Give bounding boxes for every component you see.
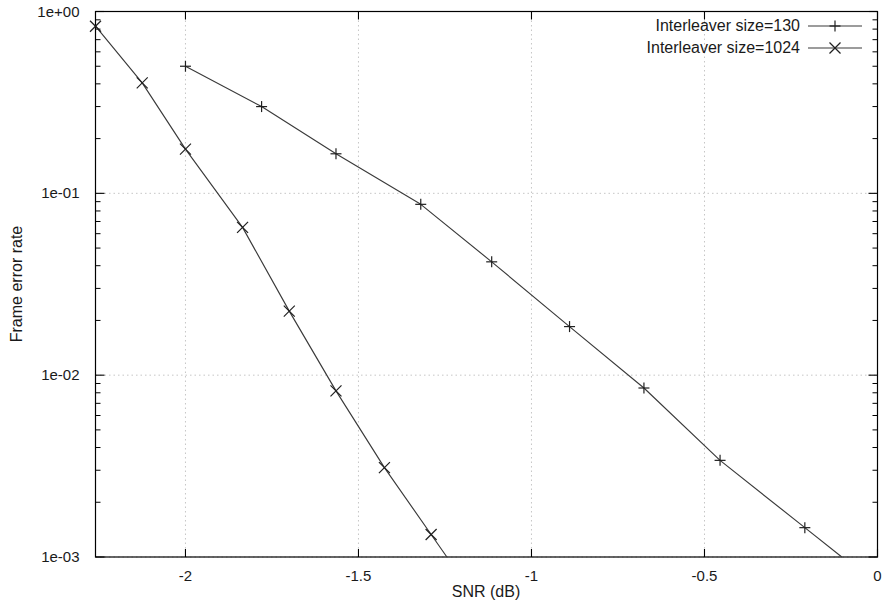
plot-background <box>0 0 893 606</box>
x-tick-label: -1 <box>525 567 538 584</box>
x-tick-label: 0 <box>873 567 881 584</box>
y-tick-label: 1e-02 <box>41 366 79 383</box>
y-tick-label: 1e+00 <box>37 3 79 20</box>
y-axis-title: Frame error rate <box>8 226 25 343</box>
legend-label: Interleaver size=130 <box>655 17 800 34</box>
x-tick-label: -0.5 <box>692 567 718 584</box>
frame-error-rate-plot: 1e+001e-011e-021e-03 -2-1.5-1-0.50 SNR (… <box>0 0 893 606</box>
chart-figure: 1e+001e-011e-021e-03 -2-1.5-1-0.50 SNR (… <box>0 0 893 606</box>
legend-label: Interleaver size=1024 <box>647 39 801 56</box>
y-tick-label: 1e-01 <box>41 184 79 201</box>
y-tick-label: 1e-03 <box>41 548 79 565</box>
x-tick-label: -1.5 <box>346 567 372 584</box>
x-tick-label: -2 <box>179 567 192 584</box>
x-axis-title: SNR (dB) <box>452 583 520 600</box>
